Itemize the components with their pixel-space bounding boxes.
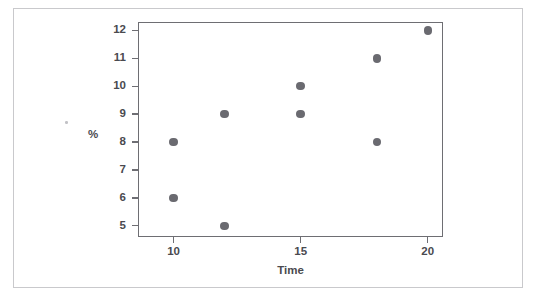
x-axis-title: Time — [138, 265, 443, 277]
y-axis-tick-mark — [132, 113, 138, 114]
y-axis-tick-mark — [132, 225, 138, 226]
y-axis-tick-label: 11 — [102, 52, 126, 64]
x-axis-tick-mark — [427, 237, 428, 243]
plot-panel — [138, 22, 443, 237]
y-axis-tick-label: 9 — [102, 108, 126, 120]
x-axis-tick-mark — [173, 237, 174, 243]
y-axis-tick-label: 5 — [102, 220, 126, 232]
y-axis-tick-mark — [132, 58, 138, 59]
y-axis-tick-mark — [132, 169, 138, 170]
y-axis-tick-mark — [132, 30, 138, 31]
y-axis-tick-mark — [132, 197, 138, 198]
data-point — [220, 222, 229, 231]
x-axis-tick-mark — [300, 237, 301, 243]
y-axis-tick-label: 10 — [102, 80, 126, 92]
y-axis-title: % — [88, 129, 98, 141]
x-axis-tick-label: 15 — [281, 246, 321, 258]
y-axis-tick-label: 6 — [102, 192, 126, 204]
y-axis-tick-label: 12 — [102, 24, 126, 36]
y-axis-tick-mark — [132, 141, 138, 142]
data-point — [373, 54, 382, 63]
data-point — [169, 194, 178, 203]
y-axis-tick-mark — [132, 86, 138, 87]
data-point — [220, 110, 229, 119]
y-axis — [0, 0, 138, 302]
y-axis-tick-label: 7 — [102, 164, 126, 176]
x-axis-tick-label: 10 — [154, 246, 194, 258]
data-point — [424, 26, 433, 35]
y-axis-tick-label: 8 — [102, 136, 126, 148]
data-point — [169, 138, 178, 147]
x-axis-tick-label: 20 — [408, 246, 448, 258]
scatter-plot-figure: 56789101112101520 % Time — [0, 0, 538, 302]
